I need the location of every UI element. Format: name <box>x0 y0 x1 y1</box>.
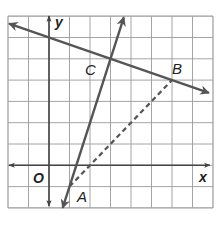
line-CB <box>9 24 209 93</box>
origin-label: O <box>33 170 44 186</box>
point-label-a: A <box>76 188 87 205</box>
point-label-c: C <box>85 61 96 78</box>
point-label-b: B <box>172 60 182 77</box>
coordinate-plane: y x O C B A <box>0 0 222 227</box>
x-axis-label: x <box>198 169 208 185</box>
segment-AB <box>70 80 173 187</box>
y-axis-label: y <box>54 14 64 30</box>
